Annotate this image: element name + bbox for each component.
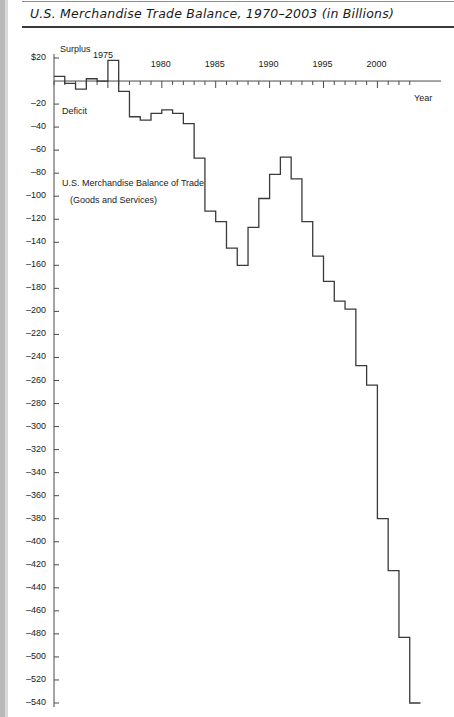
- y-tick-label: –440: [12, 582, 46, 592]
- y-tick-label: –260: [12, 375, 46, 385]
- y-tick-label: –380: [12, 513, 46, 523]
- x-tick-label: 1980: [151, 59, 171, 69]
- y-axis: [54, 54, 59, 707]
- y-tick-label: –420: [12, 559, 46, 569]
- y-tick-label: –60: [12, 144, 46, 154]
- y-tick-label: –220: [12, 328, 46, 338]
- y-tick-label: –160: [12, 259, 46, 269]
- y-tick-label: –240: [12, 351, 46, 361]
- y-tick-label: –500: [12, 651, 46, 661]
- x-tick-label: 1995: [313, 59, 333, 69]
- peak-year-1975-label: 1975: [93, 50, 113, 60]
- y-tick-label: $20: [12, 52, 46, 62]
- y-tick-label: –300: [12, 421, 46, 431]
- x-axis: [54, 81, 441, 88]
- y-tick-label: –320: [12, 444, 46, 454]
- y-tick-label: –540: [12, 697, 46, 707]
- x-tick-label: 2000: [366, 59, 386, 69]
- y-tick-label: –180: [12, 282, 46, 292]
- y-tick-label: –120: [12, 213, 46, 223]
- y-tick-label: –100: [12, 190, 46, 200]
- y-tick-label: –480: [12, 628, 46, 638]
- y-tick-label: –280: [12, 398, 46, 408]
- y-tick-label: –360: [12, 490, 46, 500]
- series-label-line1: U.S. Merchandise Balance of Trade: [62, 178, 204, 188]
- y-tick-label: –400: [12, 536, 46, 546]
- y-tick-label: –40: [12, 121, 46, 131]
- year-axis-label: Year: [414, 93, 432, 103]
- y-tick-label: –520: [12, 674, 46, 684]
- y-tick-label: –340: [12, 467, 46, 477]
- deficit-label: Deficit: [62, 106, 87, 116]
- series-label-line2: (Goods and Services): [70, 195, 157, 205]
- y-tick-label: –140: [12, 236, 46, 246]
- y-tick-label: –460: [12, 605, 46, 615]
- y-tick-label: –80: [12, 167, 46, 177]
- x-tick-label: 1990: [259, 59, 279, 69]
- x-tick-label: 1985: [205, 59, 225, 69]
- surplus-label: Surplus: [60, 44, 91, 54]
- data-series-line: [54, 60, 421, 703]
- y-tick-label: –200: [12, 305, 46, 315]
- y-tick-label: –20: [12, 98, 46, 108]
